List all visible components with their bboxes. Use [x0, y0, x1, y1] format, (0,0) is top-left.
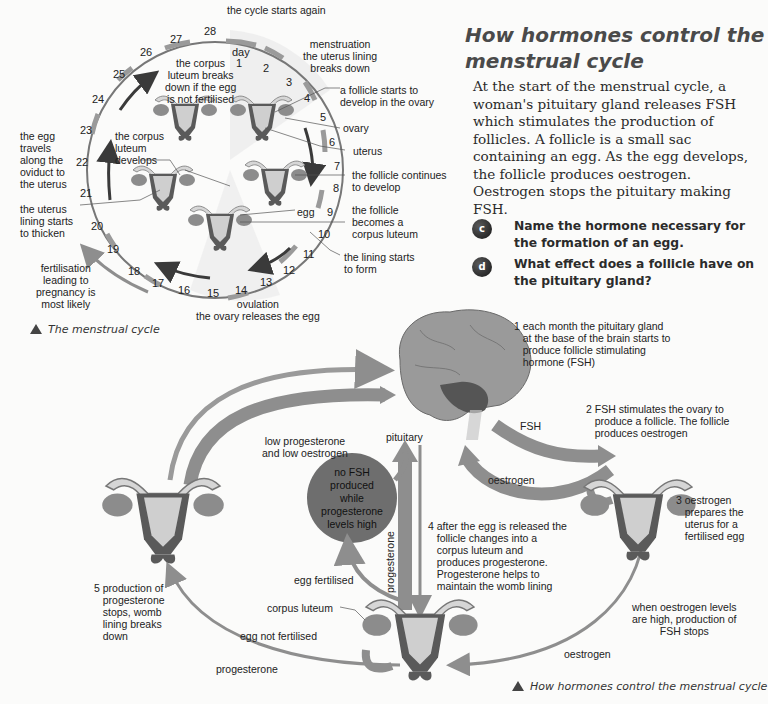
day-number: 26 — [140, 46, 152, 58]
page-title: How hormones control the menstrual cycle — [465, 22, 765, 74]
label-no-fsh: no FSH produced while progesterone level… — [308, 466, 396, 531]
triangle-icon — [512, 681, 524, 691]
day-number: 6 — [329, 136, 335, 148]
day-number: 2 — [263, 62, 269, 74]
label-step-2: 2 FSH stimulates the ovary to produce a … — [586, 403, 729, 439]
label-fsh: FSH — [520, 420, 541, 432]
label-ovary: ovary — [343, 122, 369, 134]
question-text-d: What effect does a follicle have on the … — [514, 256, 762, 290]
cycle-caption: The menstrual cycle — [30, 323, 160, 336]
cycle-caption-text: The menstrual cycle — [48, 323, 160, 336]
question-badge-d: d — [472, 257, 492, 277]
label-cycle-starts-again: the cycle starts again — [227, 4, 326, 16]
day-number: 23 — [80, 124, 92, 136]
day-number: 18 — [128, 265, 140, 277]
label-uterus: uterus — [353, 145, 382, 157]
day-number: 7 — [334, 160, 340, 172]
label-egg-fertilised: egg fertilised — [294, 574, 354, 586]
day-number: 21 — [80, 187, 92, 199]
label-ovulation: ovulation the ovary releases the egg — [196, 298, 320, 322]
label-egg: egg — [297, 206, 315, 218]
label-step-1: 1 each month the pituitary gland at the … — [514, 320, 670, 368]
day-number: 28 — [204, 25, 216, 37]
intro-paragraph: At the start of the menstrual cycle, a w… — [473, 78, 763, 218]
day-number: 13 — [260, 276, 272, 288]
label-oestrogen-upper: oestrogen — [488, 474, 535, 486]
label-corpus-luteum: corpus luteum — [267, 602, 333, 614]
question-badge-c: c — [472, 219, 492, 239]
day-number: 27 — [170, 33, 182, 45]
label-step-5: 5 production of progesterone stops, womb… — [94, 582, 165, 642]
label-fertilisation: fertilisation leading to pregnancy is mo… — [36, 262, 96, 310]
label-step-4: 4 after the egg is released the follicle… — [428, 520, 567, 592]
day-number: 5 — [320, 111, 326, 123]
day-number: 11 — [303, 248, 314, 260]
label-low-levels: low progesterone and low oestrogen — [262, 435, 348, 459]
question-c: c Name the hormone necessary for the for… — [472, 218, 762, 252]
label-corpus-develops: the corpus luteum develops — [115, 130, 164, 166]
day-number: 1 — [236, 57, 242, 69]
day-number: 15 — [207, 287, 219, 299]
day-number: 8 — [333, 182, 339, 194]
label-egg-travels: the egg travels along the oviduct to the… — [20, 130, 67, 190]
label-menstruation: menstruation the uterus lining breaks do… — [303, 38, 377, 74]
day-number: 20 — [91, 220, 103, 232]
label-progesterone-vertical: progesterone — [384, 531, 396, 593]
brain-illustration — [399, 310, 531, 440]
label-lining-starts: the lining starts to form — [344, 251, 415, 275]
hormone-caption: How hormones control the menstrual cycle — [512, 680, 767, 693]
day-number: 17 — [152, 277, 164, 289]
label-progesterone-bottom: progesterone — [216, 663, 278, 675]
label-follicle-starts: a follicle starts to develop in the ovar… — [340, 84, 434, 108]
label-pituitary: pituitary — [386, 431, 423, 443]
day-number: 24 — [92, 93, 104, 105]
label-corpus-breaks: the corpus luteum breaks down if the egg… — [165, 57, 236, 105]
day-number: 19 — [107, 243, 119, 255]
hormone-caption-text: How hormones control the menstrual cycle — [530, 680, 767, 693]
question-d: d What effect does a follicle have on th… — [472, 256, 762, 290]
label-oestrogen-lower: oestrogen — [564, 648, 611, 660]
label-follicle-continues: the follicle continues to develop — [352, 169, 447, 193]
label-lining-thicken: the uterus lining starts to thicken — [20, 203, 73, 239]
day-number: 3 — [286, 76, 292, 88]
day-number: 9 — [327, 206, 333, 218]
day-number: 10 — [318, 228, 330, 240]
triangle-icon — [30, 324, 42, 334]
day-number: 14 — [235, 284, 247, 296]
day-number: 22 — [76, 156, 88, 168]
day-number: 16 — [178, 284, 190, 296]
question-text-c: Name the hormone necessary for the forma… — [514, 218, 762, 252]
day-number: 25 — [113, 68, 125, 80]
label-oestrogen-high: when oestrogen levels are high, producti… — [632, 601, 737, 637]
day-number: 4 — [304, 92, 310, 104]
label-step-3: 3 oestrogen prepares the uterus for a fe… — [676, 494, 744, 542]
label-follicle-becomes-corpus: the follicle becomes a corpus luteum — [352, 204, 418, 240]
label-egg-not-fertilised: egg not fertilised — [240, 630, 317, 642]
day-number: 12 — [283, 264, 295, 276]
